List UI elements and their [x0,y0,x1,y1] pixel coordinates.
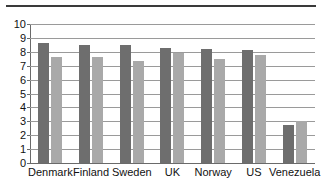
bar [296,121,307,163]
bar [38,43,49,163]
plot-area [30,24,315,163]
bar [283,125,294,163]
bar [201,49,212,163]
y-tick-label: 1 [2,144,26,155]
bar [242,50,253,163]
bar-group [152,24,193,163]
x-axis-labels: DenmarkFinlandSwedenUKNorwayUSVenezuela [30,166,315,184]
bar-group [30,24,71,163]
bar [79,45,90,163]
y-tick-label: 8 [2,47,26,58]
y-tick-label: 10 [2,19,26,30]
y-tick-label: 6 [2,75,26,86]
bar [173,53,184,163]
bar [255,55,266,163]
y-tick-label: 9 [2,33,26,44]
bar-group [274,24,315,163]
x-tick-label: Venezuela [260,166,322,179]
bar [160,48,171,163]
bar-group [193,24,234,163]
bar [133,61,144,163]
bar [51,57,62,163]
gridline [30,163,315,164]
bar [92,57,103,163]
y-tick-label: 4 [2,102,26,113]
bar-group [71,24,112,163]
y-tick-label: 3 [2,116,26,127]
bar-group [234,24,275,163]
header-rule [6,5,316,7]
y-tick-label: 2 [2,130,26,141]
bar-chart-figure: 012345678910 DenmarkFinlandSwedenUKNorwa… [0,0,322,190]
bar [120,45,131,163]
y-axis-labels: 012345678910 [0,24,26,163]
y-tick-label: 5 [2,89,26,100]
y-tick-label: 7 [2,61,26,72]
bar [214,59,225,163]
bar-group [111,24,152,163]
